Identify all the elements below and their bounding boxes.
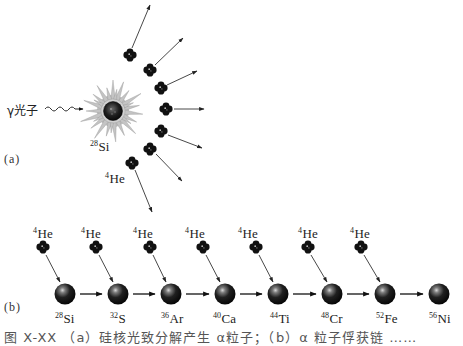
figure-caption: 图 X-XX （a）硅核光致分解产生 α粒子；（b）α 粒子俘获链 …… (4, 327, 417, 346)
nucleus-fe52 (375, 284, 396, 305)
nucleus-label-ca40: 40Ca (213, 312, 236, 325)
nucleus-label-ti44: 44Ti (270, 312, 290, 325)
silicon-label: 28Si (90, 140, 109, 153)
helium-label-a: 4He (105, 172, 125, 185)
nucleus-label-si28: 28Si (55, 312, 74, 325)
nucleus-ti44 (268, 284, 289, 305)
nucleus-cr48 (322, 284, 343, 305)
gamma-photon-wave (45, 107, 75, 111)
silicon-nucleus-burst (80, 80, 143, 142)
panel-b-label: (b) (4, 300, 21, 315)
helium-label-b1: 4He (33, 227, 53, 240)
nucleus-label-s32: 32S (110, 312, 126, 325)
captured-alpha-particles (36, 240, 380, 282)
nucleus-label-fe52: 52Fe (376, 312, 398, 325)
helium-label-b7: 4He (350, 227, 370, 240)
nucleus-ar36 (161, 284, 182, 305)
helium-label-b4: 4He (185, 227, 205, 240)
panel-a-label: (a) (4, 152, 20, 167)
nucleus-label-ar36: 36Ar (161, 312, 183, 325)
nucleus-label-cr48: 48Cr (321, 312, 343, 325)
helium-label-b5: 4He (238, 227, 258, 240)
silicon-core (104, 102, 123, 121)
nucleus-ni56 (429, 284, 450, 305)
helium-label-b2: 4He (81, 227, 101, 240)
emitted-alpha-particles (123, 5, 204, 212)
nucleus-s32 (108, 284, 129, 305)
helium-label-b6: 4He (298, 227, 318, 240)
nucleus-si28 (55, 284, 76, 305)
nucleus-ca40 (215, 284, 236, 305)
nucleus-label-ni56: 56Ni (429, 312, 451, 325)
gamma-photon-label: γ光子 (7, 101, 38, 118)
helium-label-b3: 4He (133, 227, 153, 240)
